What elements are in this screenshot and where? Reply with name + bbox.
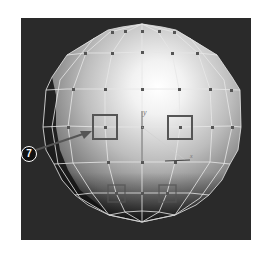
page: y x 7	[0, 0, 269, 260]
y-axis-label: y	[143, 108, 147, 117]
3d-viewport[interactable]: y x	[21, 18, 251, 240]
sphere-mesh[interactable]	[21, 18, 251, 240]
callout-number-badge: 7	[21, 146, 37, 162]
x-axis-label: x	[190, 153, 193, 159]
